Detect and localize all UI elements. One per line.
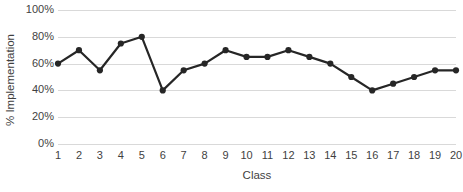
y-axis-tick-labels: 0%20%40%60%80%100% xyxy=(18,0,54,192)
x-axis-tick-label: 16 xyxy=(362,148,382,162)
y-axis-tick-label: 40% xyxy=(18,84,54,95)
data-point xyxy=(348,74,354,80)
data-series-line-implementation xyxy=(58,10,456,144)
data-point xyxy=(139,34,145,40)
x-axis-title: Class xyxy=(58,168,456,182)
x-axis-tick-label: 12 xyxy=(278,148,298,162)
y-axis-title: % Implementation xyxy=(2,5,18,155)
data-point xyxy=(369,87,375,93)
x-axis-tick-label: 6 xyxy=(153,148,173,162)
x-axis-tick-label: 2 xyxy=(69,148,89,162)
data-point xyxy=(202,61,208,67)
x-axis-tick-label: 20 xyxy=(446,148,463,162)
data-point xyxy=(453,67,459,73)
gridline xyxy=(58,144,456,145)
data-point xyxy=(160,87,166,93)
data-point xyxy=(76,47,82,53)
x-axis-tick-label: 7 xyxy=(174,148,194,162)
x-axis-tick-label: 11 xyxy=(257,148,277,162)
x-axis-tick-label: 1 xyxy=(48,148,68,162)
line-chart: % Implementation 0%20%40%60%80%100% 1234… xyxy=(0,0,463,192)
data-point xyxy=(118,40,124,46)
plot-area xyxy=(58,10,456,144)
data-point xyxy=(55,61,61,67)
x-axis-tick-label: 18 xyxy=(404,148,424,162)
x-axis-tick-label: 19 xyxy=(425,148,445,162)
data-point xyxy=(390,81,396,87)
x-axis-tick-label: 9 xyxy=(216,148,236,162)
data-point xyxy=(411,74,417,80)
data-point xyxy=(97,67,103,73)
x-axis-tick-label: 10 xyxy=(237,148,257,162)
x-axis-tick-label: 8 xyxy=(195,148,215,162)
x-axis-tick-label: 4 xyxy=(111,148,131,162)
data-point xyxy=(306,54,312,60)
x-axis-tick-label: 3 xyxy=(90,148,110,162)
x-axis-tick-label: 14 xyxy=(320,148,340,162)
data-point xyxy=(327,61,333,67)
data-point xyxy=(181,67,187,73)
series-markers xyxy=(55,34,459,94)
x-axis-tick-label: 17 xyxy=(383,148,403,162)
data-point xyxy=(222,47,228,53)
x-axis-tick-label: 13 xyxy=(299,148,319,162)
data-point xyxy=(432,67,438,73)
y-axis-tick-label: 80% xyxy=(18,31,54,42)
data-point xyxy=(264,54,270,60)
x-axis-tick-label: 15 xyxy=(341,148,361,162)
data-point xyxy=(285,47,291,53)
x-axis-tick-label: 5 xyxy=(132,148,152,162)
x-axis-tick-labels: 1234567891011121314151617181920 xyxy=(58,148,456,164)
y-axis-tick-label: 60% xyxy=(18,58,54,69)
y-axis-tick-label: 100% xyxy=(18,4,54,15)
data-point xyxy=(243,54,249,60)
y-axis-tick-label: 20% xyxy=(18,111,54,122)
series-polyline xyxy=(58,37,456,91)
